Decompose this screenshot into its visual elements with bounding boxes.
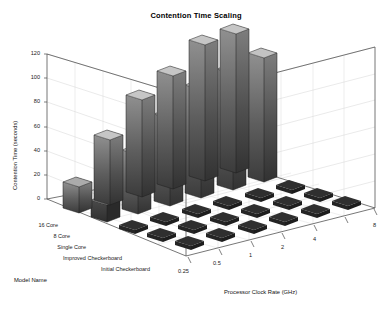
clock-rate-axis-title: Processor Clock Rate (GHz) bbox=[224, 289, 297, 295]
ztick-100: 100 bbox=[18, 74, 40, 80]
bar-16core-05 bbox=[94, 130, 123, 205]
ytick-improved-checkerboard: Improved Checkerboard bbox=[22, 255, 122, 261]
xtick-4: 4 bbox=[313, 236, 316, 242]
ztick-20: 20 bbox=[18, 171, 40, 177]
ytick-single-core: Single Core bbox=[24, 244, 86, 250]
bar-16core-025 bbox=[63, 177, 92, 213]
model-name-axis-title: Model Name bbox=[14, 277, 47, 283]
bar-16core-4 bbox=[189, 35, 218, 181]
bar-8core-8 bbox=[248, 48, 277, 182]
xtick-2: 2 bbox=[281, 244, 284, 250]
ytick-initial-checkerboard: Initial Checkerboard bbox=[56, 266, 150, 272]
xtick-0-5: 0.5 bbox=[213, 260, 221, 266]
ytick-8-core: 8 Core bbox=[18, 233, 70, 239]
xtick-1: 1 bbox=[249, 252, 252, 258]
bar-16core-2 bbox=[157, 66, 186, 189]
bar-16core-1 bbox=[126, 90, 155, 197]
ztick-60: 60 bbox=[18, 123, 40, 129]
figure-canvas: Contention Time Scaling bbox=[0, 0, 392, 316]
xtick-8: 8 bbox=[373, 222, 376, 228]
ztick-0: 0 bbox=[18, 195, 40, 201]
ztick-120: 120 bbox=[18, 50, 40, 56]
xtick-0-25: 0.25 bbox=[178, 268, 189, 274]
bar-16core-8 bbox=[220, 24, 249, 173]
ztick-80: 80 bbox=[18, 98, 40, 104]
ztick-40: 40 bbox=[18, 147, 40, 153]
value-axis-title: Contention Time (seconds) bbox=[12, 121, 18, 190]
ytick-16-core: 16 Core bbox=[6, 222, 58, 228]
